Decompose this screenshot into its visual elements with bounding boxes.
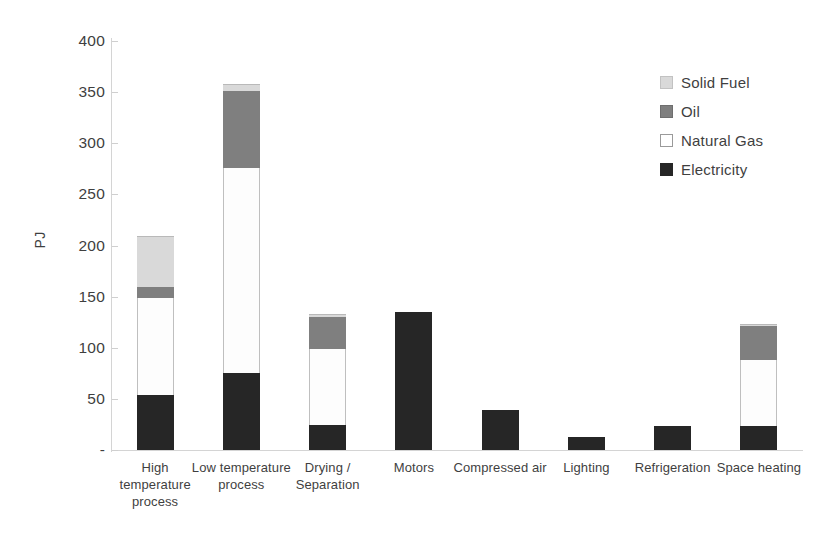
bar-group <box>740 324 777 450</box>
legend-item-oil[interactable]: Oil <box>660 97 810 126</box>
bar-segment <box>654 426 691 450</box>
bar-group <box>137 236 174 450</box>
y-tick-250: 250 <box>0 186 105 202</box>
y-tick-label: 50 <box>51 391 105 407</box>
y-tick-label: 250 <box>51 186 105 202</box>
y-tick-label: 300 <box>51 135 105 151</box>
y-tick-150: 150 <box>0 289 105 305</box>
legend-swatch-icon <box>660 134 673 147</box>
x-axis-label: Drying / Separation <box>278 459 378 493</box>
bar-segment <box>740 326 777 360</box>
bar-group <box>223 84 260 450</box>
bar-group <box>309 314 346 450</box>
bar-group <box>568 437 605 450</box>
bar-segment <box>740 360 777 426</box>
bar-segment <box>137 395 174 450</box>
x-axis-label: Lighting <box>536 459 636 476</box>
y-tick-50: 50 <box>0 391 105 407</box>
y-tick-mark <box>112 450 118 451</box>
x-axis-label: Compressed air <box>450 459 550 476</box>
x-axis-label: Motors <box>364 459 464 476</box>
bar-segment <box>137 287 174 297</box>
bar-segment <box>740 426 777 450</box>
y-tick-label: 150 <box>51 289 105 305</box>
bar-group <box>482 410 519 450</box>
y-tick-label: 100 <box>51 340 105 356</box>
y-tick-400: 400 <box>0 33 105 49</box>
y-tick-200: 200 <box>0 238 105 254</box>
x-axis-line <box>111 450 803 451</box>
chart-legend: Solid FuelOilNatural GasElectricity <box>660 68 810 184</box>
stacked-bar-chart: PJ 40035030025020015010050- High tempera… <box>0 0 814 539</box>
bar-segment <box>223 91 260 168</box>
bar-group <box>654 426 691 450</box>
bar-segment <box>309 425 346 450</box>
legend-item-solid-fuel[interactable]: Solid Fuel <box>660 68 810 97</box>
bar-segment <box>223 373 260 450</box>
bar-segment <box>223 168 260 374</box>
y-tick-label: 350 <box>51 84 105 100</box>
y-tick-label: 400 <box>51 33 105 49</box>
legend-item-natural-gas[interactable]: Natural Gas <box>660 126 810 155</box>
bar-group <box>395 312 432 450</box>
legend-swatch-icon <box>660 163 673 176</box>
bar-segment <box>137 236 174 287</box>
legend-label: Oil <box>681 103 700 120</box>
legend-item-electricity[interactable]: Electricity <box>660 155 810 184</box>
x-axis-label: Space heating <box>709 459 809 476</box>
bar-segment <box>482 410 519 450</box>
legend-swatch-icon <box>660 105 673 118</box>
y-tick-100: 100 <box>0 340 105 356</box>
bar-segment <box>137 298 174 395</box>
y-tick-300: 300 <box>0 135 105 151</box>
bar-segment <box>395 312 432 450</box>
x-axis-label: High temperature process <box>105 459 205 510</box>
y-tick-label: 200 <box>51 238 105 254</box>
bar-segment <box>568 437 605 450</box>
legend-label: Electricity <box>681 161 747 178</box>
x-axis-label: Low temperature process <box>191 459 291 493</box>
y-tick--: - <box>0 442 105 458</box>
y-tick-350: 350 <box>0 84 105 100</box>
legend-label: Solid Fuel <box>681 74 750 91</box>
bar-segment <box>223 84 260 91</box>
legend-swatch-icon <box>660 76 673 89</box>
x-axis-label: Refrigeration <box>623 459 723 476</box>
legend-label: Natural Gas <box>681 132 763 149</box>
y-tick-label: - <box>51 442 105 458</box>
bar-segment <box>309 317 346 349</box>
bar-segment <box>309 349 346 426</box>
